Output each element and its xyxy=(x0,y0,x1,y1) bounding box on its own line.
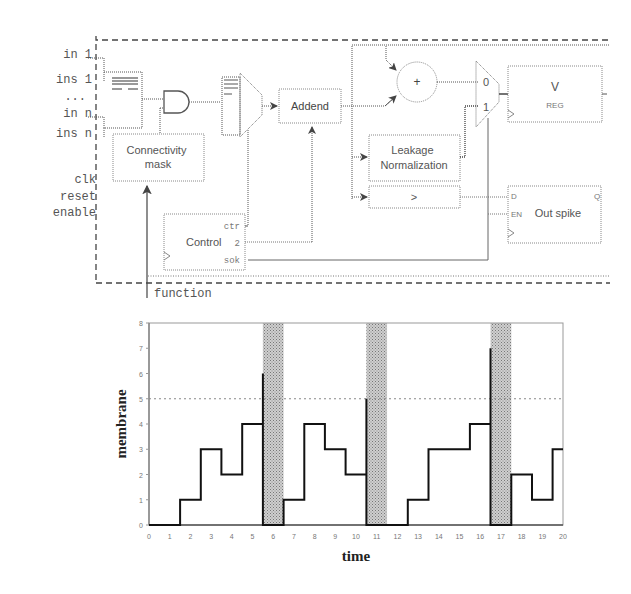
mux-input-0: 0 xyxy=(483,76,489,88)
out-spike-q: Q xyxy=(594,192,600,201)
adder-symbol: + xyxy=(413,75,420,89)
y-tick-label: 5 xyxy=(139,396,143,403)
x-tick-label: 19 xyxy=(538,533,546,540)
v-register-block xyxy=(508,66,602,122)
in-n-label: in n xyxy=(63,107,92,121)
input-mux xyxy=(240,73,262,137)
x-tick-label: 11 xyxy=(373,533,380,540)
x-tick-label: 1 xyxy=(168,533,172,540)
x-tick-label: 6 xyxy=(271,533,275,540)
svg-text:Connectivity mask: Connectivity mask xyxy=(127,144,190,170)
ellipsis-label: ... xyxy=(64,90,86,104)
mux-input-1: 1 xyxy=(483,101,489,113)
y-axis-label: membrane xyxy=(113,389,129,458)
y-tick-label: 2 xyxy=(139,472,143,479)
control-2-port: 2 xyxy=(235,239,240,249)
leakage-line1: Leakage xyxy=(391,144,433,156)
pipeline-register xyxy=(222,77,240,135)
x-tick-label: 3 xyxy=(209,533,213,540)
x-tick-label: 2 xyxy=(188,533,192,540)
control-sok-port: sok xyxy=(224,256,240,266)
input-register-stack xyxy=(112,78,138,89)
control-label: Control xyxy=(186,236,221,248)
vreg-title: V xyxy=(551,80,559,94)
function-label: function xyxy=(154,287,212,301)
leakage-line2: Normalization xyxy=(380,159,447,171)
addend-label: Addend xyxy=(291,100,329,112)
connectivity-mask-line1: Connectivity xyxy=(127,144,187,156)
vreg-sub: REG xyxy=(546,101,563,110)
x-tick-label: 0 xyxy=(147,533,151,540)
y-tick-label: 6 xyxy=(139,371,143,378)
x-tick-label: 5 xyxy=(251,533,255,540)
figure-canvas: in 1 ins 1 ... in n ins n clk reset enab… xyxy=(0,0,631,594)
svg-text:Leakage Normalization: Leakage Normalization xyxy=(380,144,447,171)
y-tick-label: 4 xyxy=(139,421,143,428)
refractory-band xyxy=(366,323,387,525)
x-axis-label: time xyxy=(342,548,371,564)
membrane-chart: 0123456780123456789101112131415161718192… xyxy=(113,320,567,564)
x-tick-label: 14 xyxy=(435,533,443,540)
out-spike-label: Out spike xyxy=(535,207,581,219)
x-tick-label: 20 xyxy=(559,533,567,540)
comparator-symbol: > xyxy=(411,191,417,203)
output-mux xyxy=(476,61,499,127)
neuron-block-diagram: in 1 ins 1 ... in n ins n clk reset enab… xyxy=(53,36,610,301)
module-boundary xyxy=(96,36,610,282)
clk-label: clk xyxy=(74,173,96,187)
ins-n-label: ins n xyxy=(56,127,92,141)
refractory-band xyxy=(491,323,512,525)
x-tick-label: 4 xyxy=(230,533,234,540)
x-tick-label: 17 xyxy=(497,533,505,540)
out-spike-d: D xyxy=(511,192,517,201)
x-tick-label: 10 xyxy=(352,533,360,540)
y-tick-label: 3 xyxy=(139,446,143,453)
y-tick-label: 0 xyxy=(139,522,143,529)
y-tick-label: 8 xyxy=(139,320,143,327)
enable-label: enable xyxy=(53,206,96,220)
ins-1-label: ins 1 xyxy=(56,73,92,87)
x-tick-label: 16 xyxy=(476,533,484,540)
x-tick-label: 8 xyxy=(313,533,317,540)
x-tick-label: 12 xyxy=(394,533,402,540)
input-labels: in 1 ins 1 ... in n ins n clk reset enab… xyxy=(53,48,96,220)
refractory-band xyxy=(263,323,284,525)
out-spike-en: EN xyxy=(511,210,522,219)
connectivity-mask-line2: mask xyxy=(145,158,172,170)
x-tick-label: 13 xyxy=(414,533,422,540)
leakage-normalization-block xyxy=(369,135,460,181)
x-tick-label: 15 xyxy=(456,533,464,540)
x-tick-label: 9 xyxy=(333,533,337,540)
x-tick-label: 7 xyxy=(292,533,296,540)
control-ctr-port: ctr xyxy=(224,222,240,232)
reset-label: reset xyxy=(60,190,96,204)
y-tick-label: 1 xyxy=(139,497,143,504)
y-tick-label: 7 xyxy=(139,345,143,352)
and-gate xyxy=(164,91,189,113)
in-1-label: in 1 xyxy=(63,48,92,62)
x-tick-label: 18 xyxy=(518,533,526,540)
